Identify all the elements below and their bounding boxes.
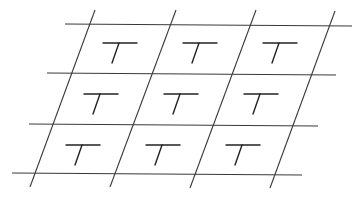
letter-t-glyph xyxy=(84,94,118,114)
horizontal-line-4 xyxy=(12,173,302,175)
letter-t-glyph xyxy=(244,94,278,114)
letter-t-glyph xyxy=(183,43,217,63)
horizontal-line-2 xyxy=(47,73,336,75)
slanted-line-2 xyxy=(110,10,176,187)
letter-t-glyph xyxy=(103,43,137,63)
letter-t-glyph xyxy=(146,145,180,165)
letter-t-glyph xyxy=(164,94,198,114)
slanted-line-4 xyxy=(270,11,335,188)
slanted-line-1 xyxy=(30,10,95,187)
slanted-line-3 xyxy=(190,10,256,188)
skewed-grid-diagram xyxy=(0,0,358,197)
letter-t-glyph xyxy=(66,145,100,165)
letter-t-glyph xyxy=(226,145,260,165)
horizontal-line-3 xyxy=(29,124,318,126)
horizontal-lines xyxy=(12,24,352,175)
horizontal-line-1 xyxy=(65,24,352,26)
letter-glyphs xyxy=(66,43,297,165)
letter-t-glyph xyxy=(263,43,297,63)
